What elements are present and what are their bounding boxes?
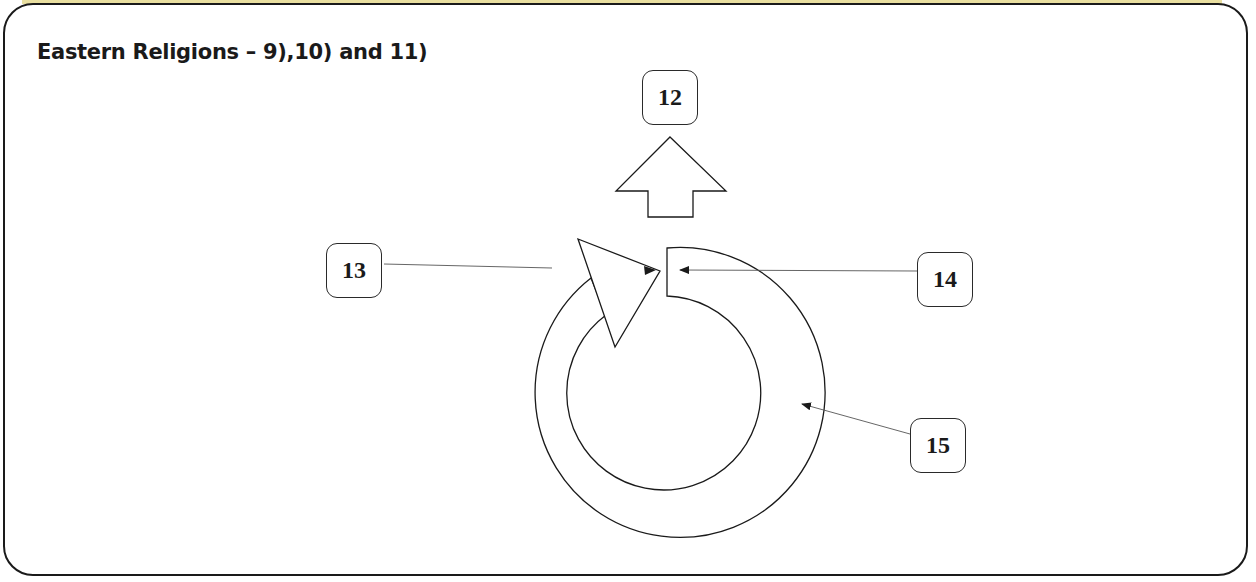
- leader-line-13: [384, 264, 552, 268]
- label-box-12: 12: [642, 70, 698, 125]
- label-box-15: 15: [910, 418, 966, 473]
- label-12-text: 12: [658, 84, 682, 111]
- label-box-14: 14: [917, 252, 973, 307]
- label-13-text: 13: [342, 257, 366, 284]
- cycle-diagram: [0, 0, 1256, 582]
- cycle-ring-shape: [535, 247, 825, 537]
- label-box-13: 13: [326, 243, 382, 298]
- up-arrow-icon: [616, 137, 726, 217]
- label-15-text: 15: [926, 432, 950, 459]
- label-14-text: 14: [933, 266, 957, 293]
